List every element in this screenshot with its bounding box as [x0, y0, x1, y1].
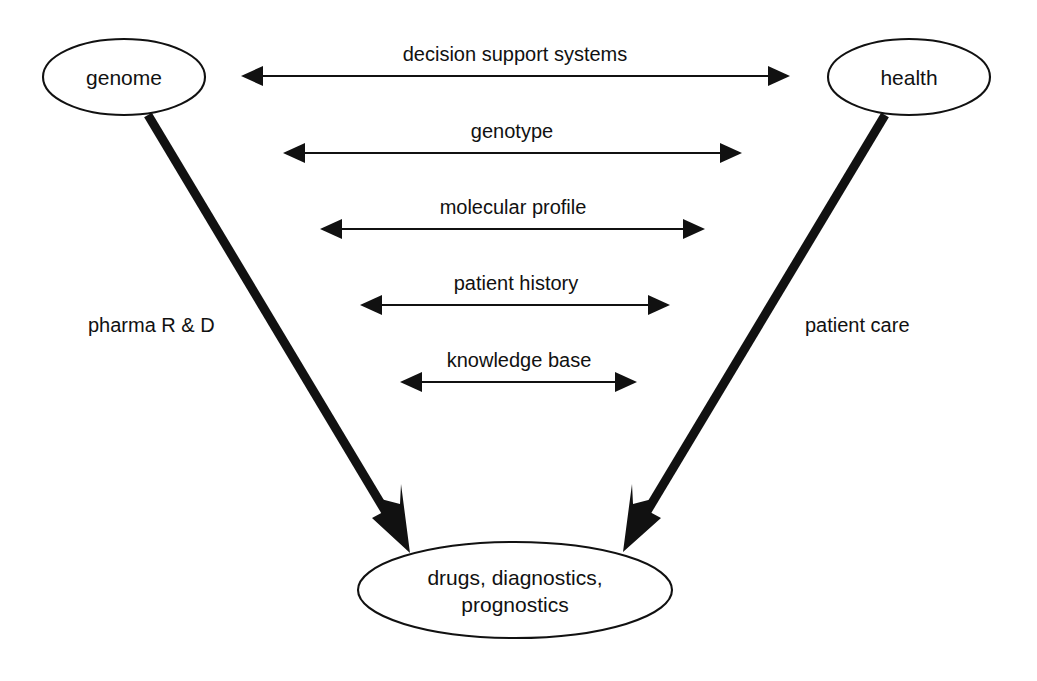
- edge-label-pharma-rd: pharma R & D: [88, 314, 215, 336]
- arrow-right-head-knowledge-base: [615, 372, 637, 392]
- diagram-canvas: decision support systems genotype molecu…: [0, 0, 1037, 681]
- arrow-left-head-patient-history: [360, 295, 382, 315]
- arrow-right-head-genotype: [720, 143, 742, 163]
- arrow-label-genotype: genotype: [471, 120, 553, 142]
- arrow-label-molecular-profile: molecular profile: [440, 196, 587, 218]
- node-genome-label: genome: [86, 66, 162, 89]
- arrow-left-head-molecular-profile: [320, 219, 342, 239]
- node-health[interactable]: health: [828, 39, 990, 115]
- arrow-left-head-knowledge-base: [400, 372, 422, 392]
- arrow-left-head-decision-support-systems: [241, 66, 263, 86]
- bidirectional-arrow-molecular-profile: molecular profile: [320, 196, 705, 239]
- node-health-label: health: [880, 66, 937, 89]
- arrow-label-patient-history: patient history: [454, 272, 579, 294]
- arrow-right-head-patient-history: [648, 295, 670, 315]
- edge-label-patient-care: patient care: [805, 314, 910, 336]
- bidirectional-arrow-genotype: genotype: [283, 120, 742, 163]
- node-outputs-label-line-1: drugs, diagnostics,: [427, 566, 602, 589]
- node-outputs-ellipse: [358, 542, 672, 638]
- arrow-left-head-genotype: [283, 143, 305, 163]
- arrow-label-knowledge-base: knowledge base: [447, 349, 592, 371]
- diagram-svg: decision support systems genotype molecu…: [0, 0, 1037, 681]
- node-outputs-label-line-2: prognostics: [461, 593, 568, 616]
- bidirectional-arrow-knowledge-base: knowledge base: [400, 349, 637, 392]
- bidirectional-arrow-patient-history: patient history: [360, 272, 670, 315]
- arrow-label-decision-support-systems: decision support systems: [403, 43, 628, 65]
- bidirectional-arrow-decision-support-systems: decision support systems: [241, 43, 790, 86]
- node-genome[interactable]: genome: [43, 39, 205, 115]
- node-outputs[interactable]: drugs, diagnostics, prognostics: [358, 542, 672, 638]
- arrow-right-head-molecular-profile: [683, 219, 705, 239]
- arrow-right-head-decision-support-systems: [768, 66, 790, 86]
